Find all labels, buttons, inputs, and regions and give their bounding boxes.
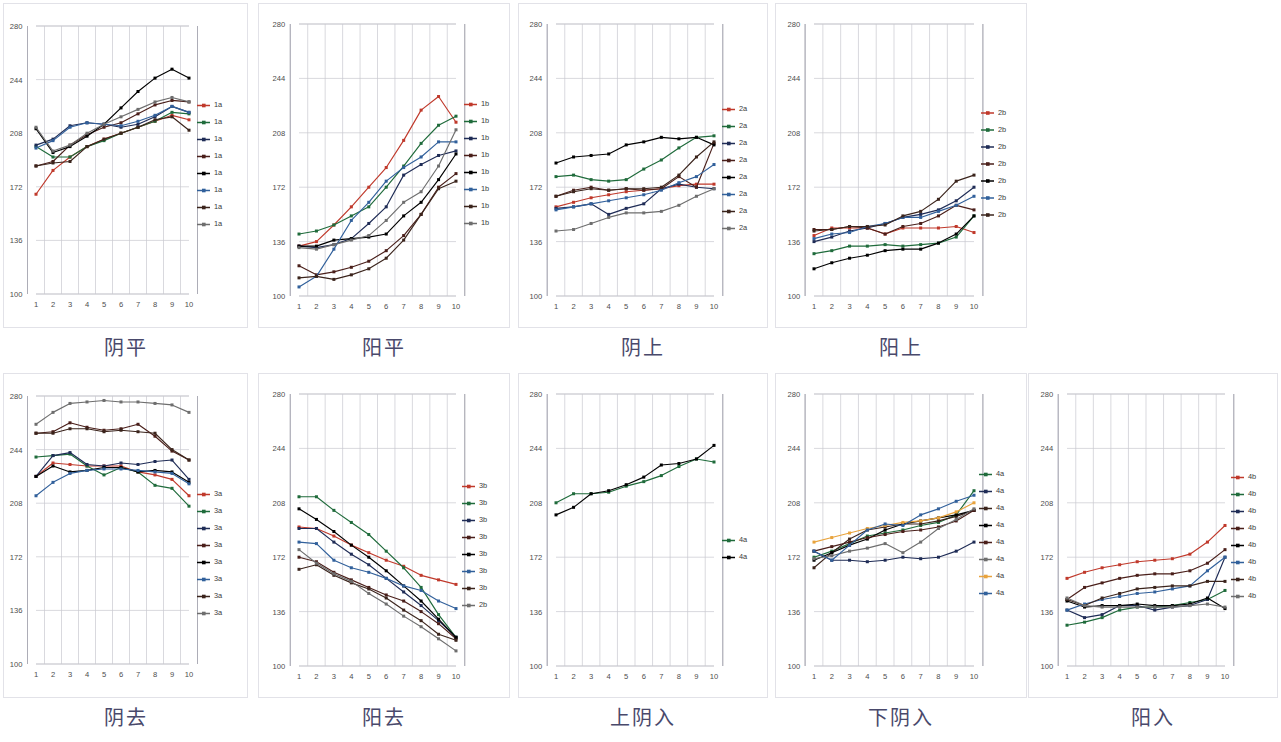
- legend-item[interactable]: 4b: [1231, 591, 1256, 600]
- legend-item[interactable]: 3b: [462, 566, 487, 575]
- data-point-marker: [52, 156, 55, 159]
- legend-item[interactable]: 1b: [464, 218, 489, 227]
- legend-swatch-marker: [986, 128, 990, 132]
- legend-item[interactable]: 1b: [464, 184, 489, 193]
- data-point-marker: [69, 160, 72, 163]
- legend-label: 4b: [1248, 591, 1256, 600]
- legend-item[interactable]: 1a: [197, 185, 223, 194]
- data-point-marker: [35, 432, 38, 435]
- legend-item[interactable]: 3a: [197, 591, 223, 600]
- legend-item[interactable]: 2a: [722, 189, 748, 198]
- y-axis-tick-label: 208: [787, 499, 800, 508]
- legend-item[interactable]: 2a: [722, 138, 748, 147]
- data-point-marker: [590, 178, 593, 181]
- legend-item[interactable]: 2a: [722, 104, 748, 113]
- data-point-marker: [830, 554, 833, 557]
- data-point-marker: [642, 211, 645, 214]
- legend-item[interactable]: 4a: [722, 535, 748, 544]
- legend-label: 4a: [739, 535, 748, 544]
- y-axis-tick-label: 208: [273, 129, 286, 138]
- legend-item[interactable]: 1a: [197, 202, 223, 211]
- legend-item[interactable]: 3a: [197, 557, 223, 566]
- data-point-marker: [830, 551, 833, 554]
- chart-panel-6: 280244208172136100123456789103b3b3b3b3b3…: [258, 373, 510, 698]
- chart-panel-8: 280244208172136100123456789104a4a4a4a4a4…: [775, 373, 1027, 698]
- plot-area: 280244208172136100123456789103a3a3a3a3a3…: [4, 374, 249, 699]
- data-point-marker: [367, 556, 370, 559]
- legend-item[interactable]: 2b: [981, 176, 1006, 185]
- data-point-marker: [385, 257, 388, 260]
- legend-item[interactable]: 4b: [1231, 540, 1256, 549]
- legend-item[interactable]: 4b: [1231, 557, 1256, 566]
- data-point-marker: [86, 469, 89, 472]
- legend-item[interactable]: 3a: [197, 523, 223, 532]
- legend-item[interactable]: 2b: [462, 600, 487, 609]
- x-axis-tick-label: 4: [607, 302, 611, 311]
- legend-item[interactable]: 4b: [1231, 523, 1256, 532]
- y-axis-tick-label: 208: [10, 129, 23, 138]
- y-axis-tick-label: 172: [1041, 553, 1054, 562]
- legend-item[interactable]: 2b: [981, 159, 1006, 168]
- legend-item[interactable]: 1b: [464, 116, 489, 125]
- legend-item[interactable]: 3b: [462, 481, 487, 490]
- legend-item[interactable]: 4b: [1231, 489, 1256, 498]
- data-point-marker: [555, 501, 558, 504]
- legend-item[interactable]: 3a: [197, 506, 223, 515]
- data-point-marker: [813, 240, 816, 243]
- legend-item[interactable]: 2a: [722, 172, 748, 181]
- legend-item[interactable]: 2b: [981, 142, 1006, 151]
- legend-item[interactable]: 3a: [197, 540, 223, 549]
- legend-item[interactable]: 2a: [722, 206, 748, 215]
- legend-item[interactable]: 1b: [464, 133, 489, 142]
- data-point-marker: [866, 547, 869, 550]
- legend-item[interactable]: 1b: [464, 201, 489, 210]
- legend-item[interactable]: 1a: [197, 168, 223, 177]
- legend-item[interactable]: 1a: [197, 134, 223, 143]
- data-point-marker: [35, 126, 38, 129]
- legend-item[interactable]: 4b: [1231, 506, 1256, 515]
- legend-item[interactable]: 3b: [462, 583, 487, 592]
- legend-item[interactable]: 3b: [462, 549, 487, 558]
- data-point-marker: [437, 633, 440, 636]
- legend-item[interactable]: 2a: [722, 155, 748, 164]
- data-point-marker: [1101, 613, 1104, 616]
- legend-label: 2a: [739, 189, 748, 198]
- data-point-marker: [332, 572, 335, 575]
- legend-item[interactable]: 1b: [464, 99, 489, 108]
- legend-item[interactable]: 2b: [981, 210, 1006, 219]
- legend-item[interactable]: 3a: [197, 574, 223, 583]
- legend-item[interactable]: 1a: [197, 151, 223, 160]
- legend-item[interactable]: 1b: [464, 150, 489, 159]
- legend-item[interactable]: 4a: [722, 552, 748, 561]
- legend-item[interactable]: 2b: [981, 193, 1006, 202]
- legend-item[interactable]: 1a: [197, 117, 223, 126]
- legend-swatch-marker: [1236, 527, 1240, 531]
- legend-item[interactable]: 3a: [197, 608, 223, 617]
- legend-item[interactable]: 3b: [462, 532, 487, 541]
- legend-item[interactable]: 2a: [722, 121, 748, 130]
- legend-item[interactable]: 3b: [462, 515, 487, 524]
- legend-item[interactable]: 3a: [197, 489, 223, 498]
- legend-item[interactable]: 3b: [462, 498, 487, 507]
- legend-swatch-marker: [202, 172, 206, 176]
- data-point-marker: [1118, 563, 1121, 566]
- tone-contour-figure: 280244208172136100123456789101a1a1a1a1a1…: [0, 0, 1281, 742]
- x-axis-tick-label: 8: [419, 672, 423, 681]
- x-axis-tick-label: 1: [34, 670, 38, 679]
- data-point-marker: [350, 239, 353, 242]
- legend-label: 1b: [481, 184, 489, 193]
- x-axis-tick-label: 1: [34, 300, 38, 309]
- data-point-marker: [103, 399, 106, 402]
- legend-item[interactable]: 2a: [722, 223, 748, 232]
- x-axis-tick-label: 9: [1205, 672, 1209, 681]
- legend-item[interactable]: 1a: [197, 100, 223, 109]
- legend-item[interactable]: 4b: [1231, 472, 1256, 481]
- legend-item[interactable]: 2b: [981, 125, 1006, 134]
- legend-item[interactable]: 4b: [1231, 574, 1256, 583]
- legend-label: 3a: [214, 557, 223, 566]
- data-point-marker: [555, 162, 558, 165]
- legend-item[interactable]: 2b: [981, 108, 1006, 117]
- legend-item[interactable]: 1b: [464, 167, 489, 176]
- legend-item[interactable]: 1a: [197, 219, 223, 228]
- data-point-marker: [154, 100, 157, 103]
